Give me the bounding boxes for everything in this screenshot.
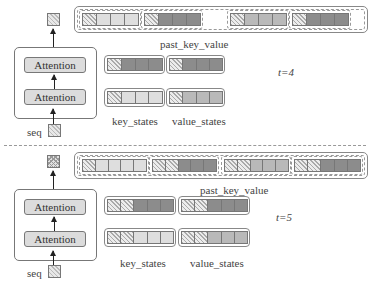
cached-token-cell: [207, 231, 221, 244]
new-token-cell: [181, 231, 195, 244]
value-states-label: value_states: [172, 115, 226, 127]
cached-token-cell: [96, 13, 111, 26]
output-token-square: [47, 13, 60, 26]
new-token-cell: [165, 159, 179, 172]
key-states-row: [104, 88, 165, 107]
cached-token-cell: [209, 91, 223, 104]
time-label: t=4: [278, 66, 294, 78]
value-states-row: [166, 55, 225, 74]
cache-group: [291, 156, 363, 175]
cached-token-cell: [186, 13, 201, 26]
cached-token-cell: [275, 159, 289, 172]
new-token-cell: [224, 159, 238, 172]
new-token-cell: [107, 231, 121, 244]
new-token-cell: [107, 199, 121, 212]
cached-token-cell: [133, 159, 147, 172]
cached-token-cell: [110, 13, 125, 26]
new-token-cell: [120, 231, 134, 244]
input-label: seq: [27, 126, 42, 138]
cached-token-cell: [124, 13, 139, 26]
new-token-cell: [307, 159, 321, 172]
cached-token-cell: [182, 58, 196, 71]
cache-group: [289, 10, 351, 29]
cached-token-cell: [148, 58, 163, 71]
new-token-cell: [152, 159, 166, 172]
cached-token-cell: [272, 13, 287, 26]
new-token-cell: [82, 13, 97, 26]
new-token-cell: [194, 231, 208, 244]
new-token-cell: [237, 159, 251, 172]
value-states-row: [166, 88, 225, 107]
attention-block-top: Attention: [24, 57, 86, 73]
input-token-square: [48, 265, 61, 278]
cached-token-cell: [221, 231, 235, 244]
cached-token-cell: [121, 91, 136, 104]
new-token-cell: [82, 159, 96, 172]
new-token-cell: [194, 199, 208, 212]
new-token-cell: [181, 199, 195, 212]
arrow-up-icon: [53, 29, 54, 48]
arrow-up-icon: [54, 75, 55, 89]
section-divider: [4, 145, 366, 146]
cached-token-cell: [172, 13, 187, 26]
attention-block-bottom: Attention: [24, 89, 86, 105]
cached-token-cell: [234, 199, 248, 212]
key-states-label: key_states: [112, 115, 158, 127]
cached-token-cell: [135, 58, 150, 71]
cached-token-cell: [306, 13, 321, 26]
new-token-cell: [144, 13, 159, 26]
cache-group: [149, 156, 219, 175]
key-states-label: key_states: [120, 257, 166, 269]
value-states-row: [178, 228, 250, 247]
new-token-cell: [294, 159, 308, 172]
input-label: seq: [27, 267, 42, 279]
cached-token-cell: [320, 13, 335, 26]
new-token-cell: [107, 91, 122, 104]
past-key-value-label: past_key_value: [200, 184, 268, 196]
new-token-cell: [292, 13, 307, 26]
cached-token-cell: [203, 159, 217, 172]
new-token-cell: [169, 91, 183, 104]
new-token-cell: [169, 58, 183, 71]
cache-group: [227, 10, 289, 29]
key-states-row: [104, 196, 176, 215]
new-token-cell: [230, 13, 245, 26]
cached-token-cell: [108, 159, 122, 172]
attention-block-bottom: Attention: [24, 231, 86, 247]
cache-group: [141, 10, 203, 29]
cached-token-cell: [334, 159, 348, 172]
cached-token-cell: [135, 91, 150, 104]
cached-token-cell: [182, 91, 196, 104]
cache-group: [221, 156, 291, 175]
cached-token-cell: [121, 58, 136, 71]
cached-token-cell: [147, 231, 161, 244]
cached-token-cell: [178, 159, 192, 172]
cached-token-cell: [258, 13, 273, 26]
cached-token-cell: [196, 91, 210, 104]
cached-token-cell: [133, 199, 147, 212]
cached-token-cell: [334, 13, 349, 26]
cached-token-cell: [320, 159, 334, 172]
cached-token-cell: [95, 159, 109, 172]
past-key-value-cache: [74, 6, 368, 33]
cached-token-cell: [244, 13, 259, 26]
arrow-up-icon: [53, 251, 54, 265]
cache-group: [79, 156, 149, 175]
cached-token-cell: [190, 159, 204, 172]
value-states-label: value_states: [190, 257, 244, 269]
cached-token-cell: [133, 231, 147, 244]
cached-token-cell: [158, 13, 173, 26]
arrow-up-icon: [53, 171, 54, 190]
arrow-up-icon: [54, 217, 55, 231]
cached-token-cell: [262, 159, 276, 172]
cached-token-cell: [160, 199, 174, 212]
cached-token-cell: [160, 231, 174, 244]
cached-token-cell: [234, 231, 248, 244]
cached-token-cell: [221, 199, 235, 212]
cached-token-cell: [147, 199, 161, 212]
cached-token-cell: [207, 199, 221, 212]
new-token-cell: [120, 199, 134, 212]
input-token-square: [48, 124, 61, 137]
cached-token-cell: [196, 58, 210, 71]
arrow-up-icon: [53, 109, 54, 124]
